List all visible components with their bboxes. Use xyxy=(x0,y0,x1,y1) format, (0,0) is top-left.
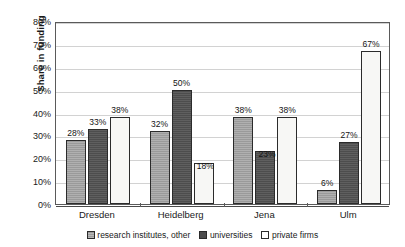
bar[interactable] xyxy=(317,190,337,204)
y-axis-tick-label: 70% xyxy=(18,40,51,49)
bar-group: 32%50%18% xyxy=(140,23,224,204)
bar[interactable] xyxy=(361,51,381,204)
bar-value-label: 27% xyxy=(341,131,358,140)
x-axis-tick xyxy=(307,203,308,207)
legend-item[interactable]: universities xyxy=(199,230,252,240)
bar[interactable] xyxy=(150,131,170,204)
bar-value-label: 67% xyxy=(363,40,380,49)
legend-swatch-icon xyxy=(261,231,269,239)
bar[interactable] xyxy=(277,117,297,204)
bar-value-label: 32% xyxy=(151,120,168,129)
bar-value-label: 33% xyxy=(89,118,106,127)
legend-label: universities xyxy=(210,230,253,240)
bar-slot: 6% xyxy=(317,23,337,204)
bar-value-label: 50% xyxy=(173,79,190,88)
bar-slot: 67% xyxy=(361,23,381,204)
bar-group: 28%33%38% xyxy=(56,23,140,204)
bar[interactable] xyxy=(88,129,108,204)
bar-group: 38%23%38% xyxy=(224,23,308,204)
legend-item[interactable]: research institutes, other xyxy=(87,230,191,240)
bar-groups: 28%33%38%32%50%18%38%23%38%6%27%67% xyxy=(56,23,389,204)
y-axis-tick-label: 20% xyxy=(18,155,51,164)
x-axis-category-label: Heidelberg xyxy=(139,209,223,221)
bar-slot: 23% xyxy=(255,23,275,204)
bar-slot: 38% xyxy=(277,23,297,204)
legend-item[interactable]: private firms xyxy=(261,230,318,240)
bar-slot: 50% xyxy=(172,23,192,204)
legend-swatch-icon xyxy=(199,231,207,239)
plot-area: 28%33%38%32%50%18%38%23%38%6%27%67% xyxy=(55,22,390,205)
x-axis-category-label: Jena xyxy=(223,209,307,221)
bar-value-label: 38% xyxy=(279,106,296,115)
bar[interactable] xyxy=(172,90,192,204)
x-axis-category-label: Ulm xyxy=(306,209,390,221)
bar-group: 6%27%67% xyxy=(307,23,391,204)
axis-baseline xyxy=(56,206,389,207)
bar-slot: 38% xyxy=(110,23,130,204)
x-axis-category-label: Dresden xyxy=(55,209,139,221)
bar-value-label: 28% xyxy=(67,129,84,138)
y-axis-tick-label: 60% xyxy=(18,63,51,72)
legend-label: private firms xyxy=(272,230,318,240)
x-axis-tick xyxy=(140,203,141,207)
bar-slot: 38% xyxy=(233,23,253,204)
y-axis-tick-label: 40% xyxy=(18,109,51,118)
bar-slot: 18% xyxy=(194,23,214,204)
bar[interactable] xyxy=(233,117,253,204)
legend-swatch-icon xyxy=(87,231,95,239)
bar-value-label: 38% xyxy=(111,106,128,115)
x-axis-category-labels: DresdenHeidelbergJenaUlm xyxy=(55,209,390,225)
bar-value-label: 6% xyxy=(321,179,333,188)
y-axis-tick-label: 50% xyxy=(18,86,51,95)
y-axis-tick-label: 30% xyxy=(18,132,51,141)
bar-value-label: 23% xyxy=(258,150,275,159)
bar[interactable] xyxy=(66,140,86,204)
y-axis-tick-label: 0% xyxy=(18,201,51,210)
y-axis-tick-label: 80% xyxy=(18,18,51,27)
bar-chart-figure: Share in funding 0%10%20%30%40%50%60%70%… xyxy=(0,0,405,247)
chart-legend: research institutes, otheruniversitiespr… xyxy=(0,230,405,240)
bar-slot: 27% xyxy=(339,23,359,204)
bar-slot: 28% xyxy=(66,23,86,204)
bar[interactable] xyxy=(339,142,359,204)
y-axis-tick-label: 10% xyxy=(18,178,51,187)
y-axis-tick-labels: 0%10%20%30%40%50%60%70%80% xyxy=(18,22,51,205)
bar[interactable] xyxy=(110,117,130,204)
bar-value-label: 38% xyxy=(235,106,252,115)
legend-label: research institutes, other xyxy=(97,230,190,240)
bar-slot: 32% xyxy=(150,23,170,204)
bar-value-label: 18% xyxy=(197,162,214,171)
bar-slot: 33% xyxy=(88,23,108,204)
x-axis-tick xyxy=(224,203,225,207)
